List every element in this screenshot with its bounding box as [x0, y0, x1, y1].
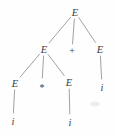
tree-edge-E-root-op-plus — [73, 19, 75, 44]
tree-edge-E-root-E-right — [79, 18, 96, 43]
tree-edge-E-right-i-right — [100, 56, 101, 79]
tree-edge-E-left-left-i-left — [13, 90, 14, 113]
tree-node-i-left: i — [12, 116, 15, 127]
tree-edge-E-left-right-i-mid — [69, 89, 70, 114]
tree-node-E-right: E — [96, 44, 104, 55]
parse-tree-figure: EE+EE*Eiii — [0, 0, 115, 136]
parse-tree-svg: EE+EE*Eiii — [0, 0, 115, 136]
tree-node-E-root: E — [71, 7, 79, 18]
tree-node-op-plus: + — [69, 45, 75, 56]
tree-edge-E-left-E-left-left — [20, 54, 39, 77]
tree-edge-E-left-E-left-right — [48, 55, 64, 76]
tree-node-E-left: E — [40, 44, 48, 55]
scan-artifact — [90, 102, 100, 107]
tree-node-E-left-right: E — [65, 77, 73, 88]
tree-edge-E-left-op-star — [42, 56, 43, 78]
tree-edge-E-root-E-left — [49, 17, 70, 43]
tree-node-i-mid: i — [69, 117, 72, 128]
tree-node-E-left-left: E — [11, 78, 19, 89]
tree-node-op-star: * — [40, 82, 45, 93]
tree-node-i-right: i — [101, 82, 104, 93]
